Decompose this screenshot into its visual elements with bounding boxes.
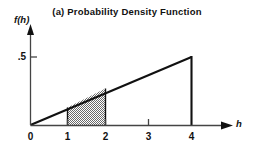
x-tick-label-1: 1: [60, 131, 76, 142]
density-line: [31, 57, 192, 125]
x-tick-label-0: 0: [23, 131, 39, 142]
y-axis-label: f(h): [14, 14, 29, 25]
y-axis-arrowhead: [27, 24, 34, 35]
x-axis-label: h: [236, 118, 242, 129]
plot-area: [0, 0, 254, 149]
x-tick-label-3: 3: [141, 131, 157, 142]
x-tick-label-4: 4: [184, 131, 200, 142]
x-tick-label-2: 2: [98, 131, 114, 142]
y-tick-label-0-5: .5: [10, 51, 26, 62]
x-axis-arrowhead: [221, 122, 233, 130]
probability-density-function-figure: (a) Probability Density Function: [0, 0, 254, 149]
